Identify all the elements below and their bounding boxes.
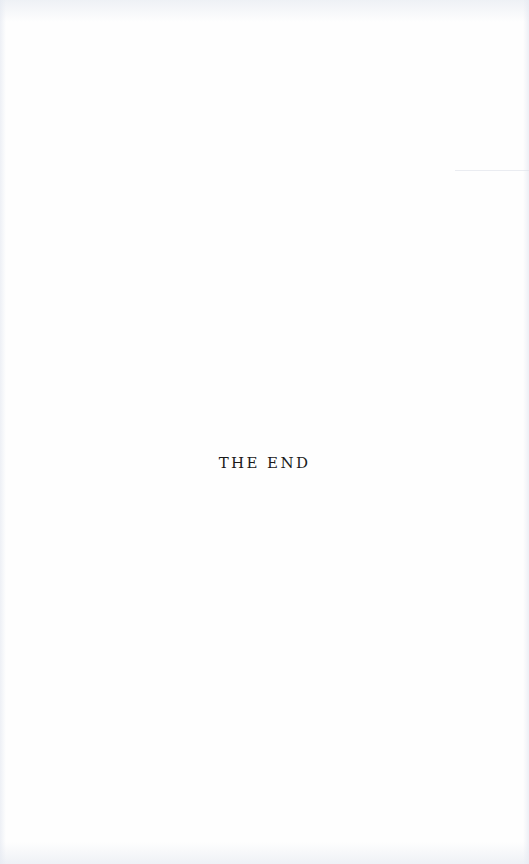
- page-edge-left: [0, 0, 6, 864]
- page-crease: [455, 170, 529, 171]
- page-edge-bottom: [0, 842, 529, 864]
- page-edge-right: [523, 0, 529, 864]
- closing-text: THE END: [0, 453, 529, 473]
- page-edge-top: [0, 0, 529, 22]
- book-page: THE END: [0, 0, 529, 864]
